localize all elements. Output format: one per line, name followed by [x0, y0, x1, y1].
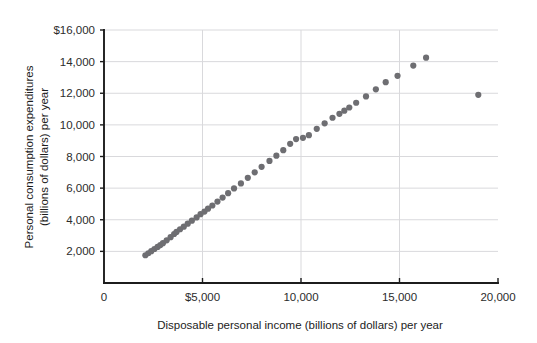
figure-background — [0, 0, 537, 343]
plot-canvas: 2,0004,0006,0008,00010,00012,00014,000$1… — [0, 0, 537, 343]
scatter-point — [306, 132, 312, 138]
scatter-point — [214, 198, 220, 204]
scatter-point — [410, 62, 416, 68]
scatter-point — [245, 175, 251, 181]
scatter-point — [259, 164, 265, 170]
x-tick-label: 0 — [101, 291, 107, 303]
scatter-point — [209, 202, 215, 208]
x-tick-label: 15,000 — [382, 291, 417, 303]
scatter-point — [383, 79, 389, 85]
y-tick-label: 10,000 — [60, 119, 95, 131]
scatter-point — [231, 185, 237, 191]
scatter-point — [280, 147, 286, 153]
scatter-point — [373, 86, 379, 92]
y-axis-title-line-2: (billions of dollars) per year — [38, 88, 50, 226]
scatter-point — [300, 135, 306, 141]
scatter-point — [287, 141, 293, 147]
scatter-point — [219, 195, 225, 201]
y-tick-label: 2,000 — [66, 245, 95, 257]
scatter-point — [475, 92, 481, 98]
scatter-point — [363, 93, 369, 99]
scatter-plot-figure: 2,0004,0006,0008,00010,00012,00014,000$1… — [0, 0, 537, 343]
scatter-point — [314, 126, 320, 132]
scatter-point — [353, 100, 359, 106]
x-tick-label: 10,000 — [283, 291, 318, 303]
scatter-point — [423, 55, 429, 61]
y-axis-title-line-1: Personal consumption expenditures — [23, 65, 35, 248]
scatter-point — [322, 120, 328, 126]
x-tick-label: $5,000 — [185, 291, 220, 303]
scatter-point — [293, 136, 299, 142]
scatter-point — [394, 73, 400, 79]
y-tick-label: 8,000 — [66, 151, 95, 163]
scatter-point — [252, 169, 258, 175]
y-tick-label: 4,000 — [66, 214, 95, 226]
y-tick-label: 14,000 — [60, 56, 95, 68]
y-tick-label: 6,000 — [66, 182, 95, 194]
scatter-point — [273, 153, 279, 159]
y-tick-label: 12,000 — [60, 87, 95, 99]
x-axis-title: Disposable personal income (billions of … — [157, 319, 443, 331]
scatter-point — [329, 115, 335, 121]
scatter-point — [346, 104, 352, 110]
y-tick-label: $16,000 — [53, 24, 95, 36]
x-tick-label: 20,000 — [480, 291, 515, 303]
scatter-point — [238, 180, 244, 186]
scatter-point — [266, 158, 272, 164]
scatter-point — [225, 190, 231, 196]
